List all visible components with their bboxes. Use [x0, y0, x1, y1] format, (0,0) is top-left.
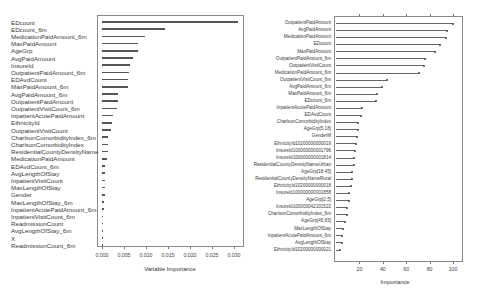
x-tick: [102, 247, 103, 249]
x-tick: [430, 262, 431, 264]
category-label: InsureId100000042101522: [276, 204, 331, 209]
lollipop-stem: [336, 150, 355, 151]
category-label: MedicationPaidAmount_6m: [11, 33, 87, 40]
bar: [102, 108, 117, 110]
lollipop-point: [445, 37, 447, 39]
bar: [102, 172, 105, 174]
category-label: OutpatientPaidAmount: [285, 20, 331, 25]
category-label: InsureId100000000001858: [276, 190, 331, 195]
right-importance-chart: OutpatientPaidAmountAvgPaidAmountMedicat…: [250, 0, 480, 294]
category-label: Gender: [11, 191, 32, 198]
lollipop-point: [446, 30, 448, 32]
category-label: EDAvdCount: [305, 112, 331, 117]
bar: [102, 216, 103, 218]
category-label: ReadmissionCount: [11, 220, 63, 227]
category-label: AvgPaidAmount: [11, 55, 55, 62]
lollipop-stem: [336, 143, 356, 144]
category-label: MaxPaidAmount: [297, 49, 331, 54]
category-label: OutpatientVisitCount: [11, 127, 68, 134]
lollipop-point: [355, 143, 357, 145]
lollipop-stem: [336, 23, 453, 24]
bar: [102, 144, 108, 146]
x-tick: [234, 247, 235, 249]
lollipop-stem: [336, 186, 351, 187]
category-label: CharlsonComorbidityIndex_6m: [11, 134, 96, 141]
lollipop-stem: [336, 58, 425, 59]
x-tick: [406, 262, 407, 264]
category-label: OutpatientVisitCount: [289, 63, 331, 68]
top-tick: [430, 14, 431, 16]
x-tick: [146, 247, 147, 249]
category-label: CharlsonComorbidityIndex_6m: [268, 211, 331, 216]
bar: [102, 201, 104, 203]
category-label: InsureId100000000001796: [276, 148, 331, 153]
category-label: InsureId: [11, 62, 33, 69]
lollipop-point: [357, 129, 359, 131]
lollipop-point: [342, 228, 344, 230]
top-tick: [453, 14, 454, 16]
category-label: InpatientVisitCount: [11, 177, 63, 184]
lollipop-stem: [336, 30, 447, 31]
x-tick: [212, 247, 213, 249]
category-label: InpatientAcutePaidAmount_6m: [11, 206, 96, 213]
category-label: ResidentialCountyDensityName: [11, 148, 98, 155]
category-label: EthnicityId10200000000018: [274, 183, 331, 188]
category-label: MaxPaidAmount: [11, 40, 56, 47]
category-label: AvgPaidAmount: [298, 27, 331, 32]
category-label: AgeGrp[45,65]: [301, 218, 331, 223]
bar: [102, 244, 103, 246]
lollipop-stem: [336, 80, 387, 81]
category-label: AvgLengthOfStay_6m: [11, 227, 71, 234]
x-tick-label: 0.005: [118, 252, 131, 258]
lollipop-stem: [336, 115, 361, 116]
category-label: MaxPaidAmount_6m: [11, 83, 68, 90]
lollipop-stem: [336, 158, 354, 159]
lollipop-stem: [336, 44, 440, 45]
lollipop-point: [360, 115, 362, 117]
bar: [102, 115, 113, 117]
lollipop-point: [341, 242, 343, 244]
category-label: InsureId100000000001814: [276, 155, 331, 160]
category-label: AvgLengthOfStay: [295, 240, 331, 245]
category-label: AgeGrp[5,18]: [304, 126, 331, 131]
bar: [102, 43, 138, 45]
bar: [102, 21, 238, 23]
bar: [102, 187, 105, 189]
bar: [102, 158, 107, 160]
category-label: EDcount_6m: [304, 98, 331, 103]
bar: [102, 151, 108, 153]
bar: [102, 72, 129, 74]
x-tick: [168, 247, 169, 249]
category-label: InpatientAcutePaidAmount: [11, 112, 84, 119]
lollipop-point: [353, 164, 355, 166]
category-label: CharlsonComorbidityIndex: [11, 141, 84, 148]
bar: [102, 129, 111, 131]
x-tick-label: 0.010: [140, 252, 153, 258]
x-tick-label: 0.020: [184, 252, 197, 258]
bar: [102, 79, 128, 81]
lollipop-stem: [336, 179, 352, 180]
right-x-axis-title: Importance: [381, 279, 410, 285]
lollipop-stem: [336, 193, 349, 194]
category-label: X: [11, 235, 15, 242]
bar: [102, 100, 118, 102]
category-label: InpatientVisitCount_6m: [11, 213, 75, 220]
category-label: EDAvdCount: [11, 76, 47, 83]
x-tick-label: 0.025: [206, 252, 219, 258]
x-tick-label: 40: [380, 266, 386, 272]
category-label: EDcount_6m: [11, 26, 47, 33]
right-plot-area: [334, 16, 463, 262]
lollipop-point: [341, 235, 343, 237]
bar: [102, 180, 105, 182]
left-variable-importance-chart: EDcountEDcount_6mMedicationPaidAmount_6m…: [0, 0, 250, 294]
x-tick: [383, 262, 384, 264]
bar: [102, 230, 103, 232]
category-label: EDcount: [313, 41, 331, 46]
top-tick: [406, 14, 407, 16]
bar: [102, 86, 128, 88]
category-label: AgeGrp[18,45]: [301, 169, 331, 174]
lollipop-stem: [336, 37, 446, 38]
bar: [102, 223, 103, 225]
category-label: EthnicityId10200000000021: [274, 247, 331, 252]
left-x-axis-title: Variable Importance: [144, 266, 195, 272]
